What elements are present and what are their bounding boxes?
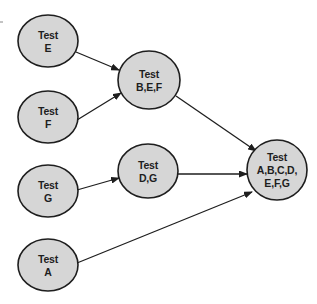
node-label: G xyxy=(44,192,52,204)
node-label: A,B,C,D, xyxy=(257,164,298,176)
node-test-bef: TestB,E,F xyxy=(118,51,180,109)
node-title: Test xyxy=(38,105,59,117)
node-label: D,G xyxy=(139,172,157,184)
edge-a-to-all-arrow xyxy=(77,192,252,263)
node-title: Test xyxy=(38,253,59,265)
node-label: B,E,F xyxy=(136,81,163,93)
node-test-all: TestA,B,C,D,E,F,G xyxy=(247,140,307,200)
node-title: Test xyxy=(38,29,59,41)
node-test-a: TestA xyxy=(18,239,78,291)
edge-e-to-bef-arrow xyxy=(76,52,119,70)
dependency-diagram: TestETestFTestGTestATestB,E,FTestD,GTest… xyxy=(0,0,317,304)
node-label: F xyxy=(45,118,52,130)
edge-g-to-dg-arrow xyxy=(77,178,119,190)
edge-bef-to-all-arrow xyxy=(176,96,256,151)
node-title: Test xyxy=(267,151,288,163)
edge-f-to-bef-arrow xyxy=(77,93,121,120)
node-title: Test xyxy=(138,159,159,171)
node-test-dg: TestD,G xyxy=(118,144,178,198)
nodes-layer: TestETestFTestGTestATestB,E,FTestD,GTest… xyxy=(18,15,307,291)
node-label: E,F,G xyxy=(264,177,289,189)
node-test-f: TestF xyxy=(18,91,78,143)
node-test-e: TestE xyxy=(18,15,78,67)
node-title: Test xyxy=(38,179,59,191)
node-label: E xyxy=(45,42,52,54)
node-title: Test xyxy=(139,68,160,80)
node-test-g: TestG xyxy=(18,165,78,217)
node-label: A xyxy=(44,266,52,278)
